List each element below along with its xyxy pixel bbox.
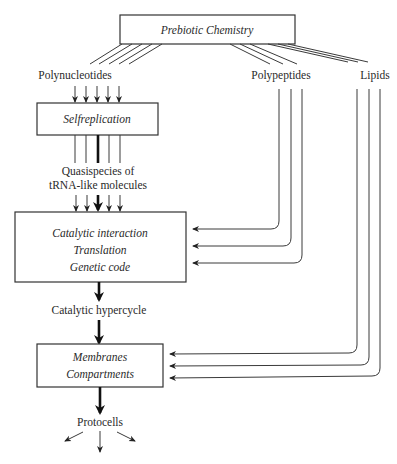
prebiotic-to-lipids-lines xyxy=(268,44,368,62)
prebiotic-to-polypeptides-lines xyxy=(230,44,297,64)
genetic-code-label: Genetic code xyxy=(70,261,130,273)
selfreplication-box: Selfreplication xyxy=(37,103,158,135)
quasispecies-label-line2: tRNA-like molecules xyxy=(49,179,148,191)
catalytic-interaction-box: Catalytic interaction Translation Geneti… xyxy=(15,212,186,282)
polypeptides-label: Polypeptides xyxy=(251,69,311,82)
polynucleotides-arrows xyxy=(75,86,119,102)
membranes-label: Membranes xyxy=(72,351,128,363)
polynucleotides-label: Polynucleotides xyxy=(38,69,112,82)
prebiotic-evolution-diagram: Prebiotic Chemistry Polynucleotides Poly… xyxy=(0,0,397,464)
quasispecies-arrows xyxy=(76,195,120,211)
prebiotic-to-polynucleotides-lines xyxy=(90,44,162,64)
translation-label: Translation xyxy=(73,244,126,256)
protocells-output-arrows xyxy=(65,431,135,452)
lipids-label: Lipids xyxy=(360,69,390,82)
prebiotic-chemistry-label: Prebiotic Chemistry xyxy=(160,24,254,37)
prebiotic-chemistry-box: Prebiotic Chemistry xyxy=(120,15,295,44)
polypeptides-to-catalytic-arrows xyxy=(193,89,302,263)
protocells-label: Protocells xyxy=(77,416,124,428)
catalytic-interaction-label: Catalytic interaction xyxy=(52,227,148,240)
lipids-to-membranes-arrows xyxy=(170,89,380,378)
membranes-box: Membranes Compartments xyxy=(37,344,163,387)
quasispecies-label-line1: Quasispecies of xyxy=(62,165,135,178)
selfreplication-output-lines xyxy=(75,135,120,163)
catalytic-hypercycle-label: Catalytic hypercycle xyxy=(52,304,147,317)
compartments-label: Compartments xyxy=(66,368,134,381)
selfreplication-label: Selfreplication xyxy=(63,113,131,126)
